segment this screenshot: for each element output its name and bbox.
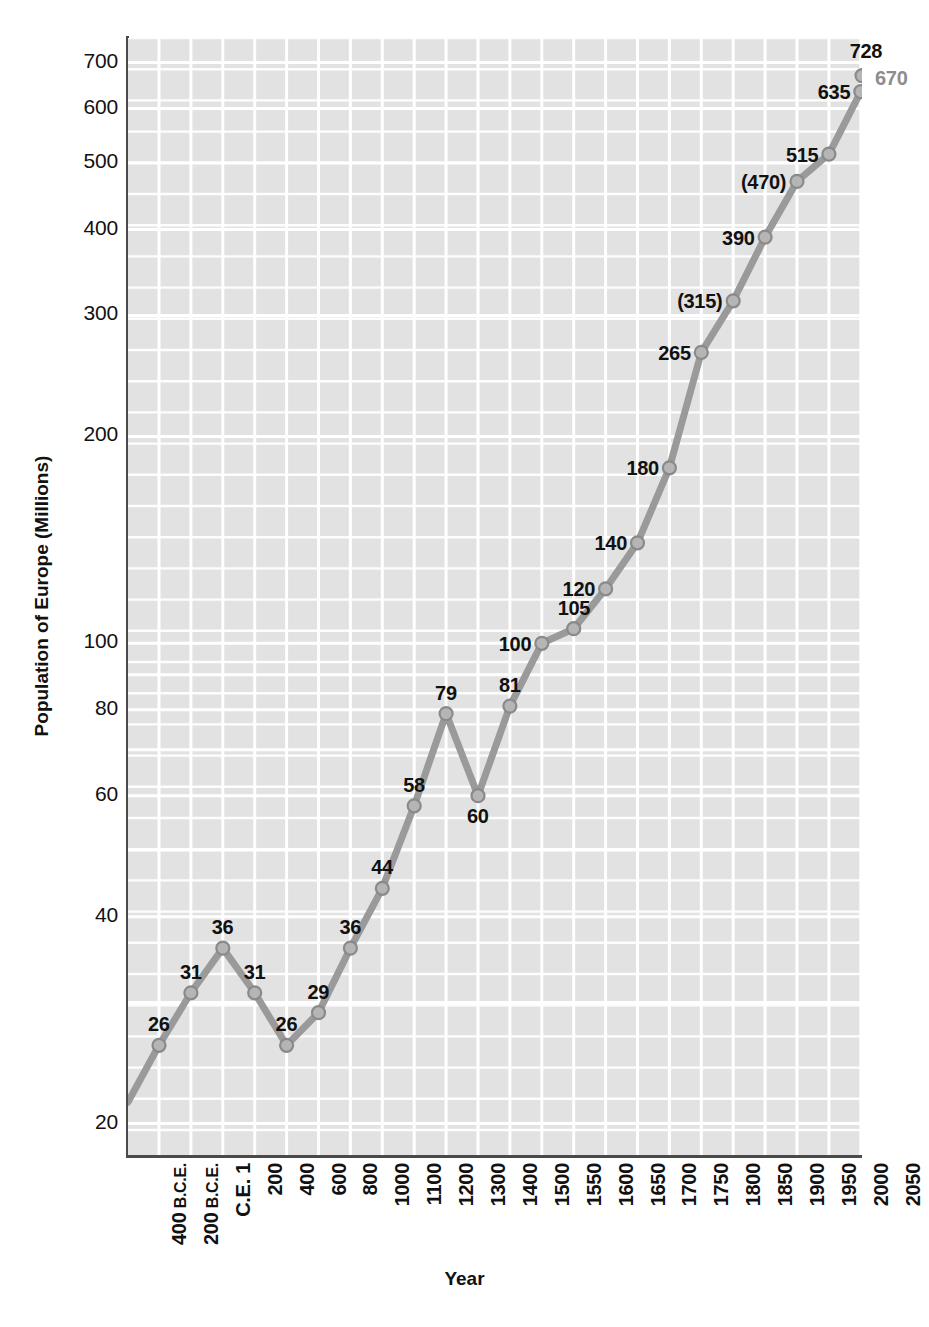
data-point-marker: [663, 461, 676, 474]
data-value-label: 58: [403, 774, 425, 797]
data-value-label: 390: [722, 227, 754, 250]
data-value-label: 515: [786, 144, 818, 167]
y-tick-label: 20: [54, 1110, 118, 1134]
data-value-label: 120: [563, 578, 595, 601]
data-value-label: 140: [595, 532, 627, 555]
data-value-label: 635: [818, 81, 850, 104]
y-tick-label: 100: [54, 629, 118, 653]
data-value-label: 36: [212, 916, 234, 939]
data-point-marker: [822, 148, 835, 161]
data-point-marker: [567, 622, 580, 635]
data-point-marker: [535, 637, 548, 650]
data-point-marker: [727, 294, 740, 307]
data-value-label: 81: [499, 674, 521, 697]
data-point-marker: [280, 1039, 293, 1052]
data-point-marker: [153, 1039, 166, 1052]
data-value-label: 26: [276, 1013, 298, 1036]
y-tick-label: 300: [54, 301, 118, 325]
data-point-marker: [503, 700, 516, 713]
data-value-label: 26: [148, 1013, 170, 1036]
data-value-label: 31: [244, 961, 266, 984]
y-tick-label: 700: [54, 49, 118, 73]
x-axis-line: [126, 1155, 862, 1158]
population-line-chart: Population of Europe (Millions) 20406080…: [0, 0, 929, 1327]
plot-canvas: [128, 38, 862, 1155]
y-tick-label: 600: [54, 95, 118, 119]
data-point-marker: [312, 1006, 325, 1019]
data-point-marker: [856, 69, 863, 82]
data-point-marker: [472, 789, 485, 802]
data-value-label: 728: [850, 40, 882, 63]
data-point-marker: [344, 942, 357, 955]
plot-area: [128, 38, 862, 1155]
y-tick-label: 200: [54, 422, 118, 446]
data-value-label: (470): [741, 171, 786, 194]
data-point-marker: [440, 707, 453, 720]
data-point-marker: [759, 231, 772, 244]
data-value-label: (315): [677, 290, 722, 313]
y-tick-label: 80: [54, 696, 118, 720]
y-tick-label: 500: [54, 149, 118, 173]
data-point-marker: [695, 346, 708, 359]
data-value-label: 79: [435, 682, 457, 705]
data-value-label: 36: [339, 916, 361, 939]
y-tick-label: 60: [54, 782, 118, 806]
data-point-marker: [599, 582, 612, 595]
data-point-marker: [376, 882, 389, 895]
data-point-marker: [631, 536, 644, 549]
y-axis-tick-labels: 20406080100200300400500600700: [46, 0, 118, 1327]
x-axis-title: Year: [0, 1268, 929, 1290]
data-point-marker: [248, 986, 261, 999]
data-point-marker: [854, 85, 862, 98]
y-tick-label: 400: [54, 216, 118, 240]
data-value-label: 44: [371, 856, 393, 879]
data-point-marker: [184, 986, 197, 999]
y-tick-label: 40: [54, 903, 118, 927]
data-value-label: 31: [180, 961, 202, 984]
data-value-label: 100: [499, 633, 531, 656]
data-point-marker: [216, 942, 229, 955]
data-value-label: 29: [308, 981, 330, 1004]
data-value-label: 670: [875, 67, 907, 90]
data-value-label: 180: [626, 457, 658, 480]
x-axis-tick-labels: 400 B.C.E.200 B.C.E.C.E. 120040060080010…: [0, 1163, 929, 1283]
data-point-marker: [791, 175, 804, 188]
data-point-marker: [408, 799, 421, 812]
data-value-label: 60: [467, 805, 489, 828]
data-value-label: 265: [658, 342, 690, 365]
